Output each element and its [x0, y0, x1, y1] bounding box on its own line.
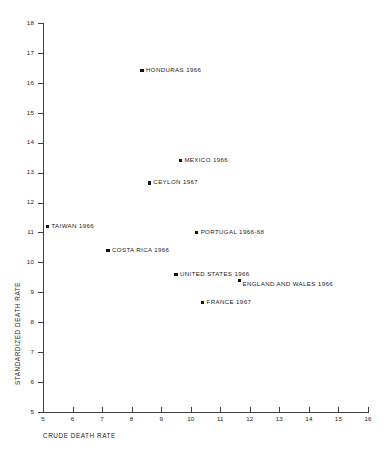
x-tick-label: 8 — [120, 416, 144, 422]
y-tick-label: 16 — [0, 80, 34, 86]
x-tick-label: 7 — [90, 416, 114, 422]
x-axis-line — [43, 412, 369, 413]
x-tick-label: 14 — [297, 416, 321, 422]
data-point-label: COSTA RICA 1966 — [112, 247, 169, 253]
x-tick-label: 9 — [149, 416, 173, 422]
data-point-marker — [46, 225, 49, 228]
x-tick-label: 11 — [208, 416, 232, 422]
x-tick-label: 10 — [179, 416, 203, 422]
y-tick-label: 18 — [0, 20, 34, 26]
data-point-marker — [179, 159, 182, 162]
data-point-marker — [140, 69, 143, 72]
x-tick-label: 15 — [326, 416, 350, 422]
plot-area — [43, 23, 368, 412]
data-point-label: TAIWAN 1966 — [51, 223, 94, 229]
x-axis-title: CRUDE DEATH RATE — [43, 432, 116, 439]
y-tick-label: 11 — [0, 229, 34, 235]
y-tick-label: 13 — [0, 169, 34, 175]
data-point-label: FRANCE 1967 — [207, 299, 252, 305]
y-tick-label: 17 — [0, 50, 34, 56]
scatter-plot-figure: 56789101112131415161718 5678910111213141… — [0, 0, 389, 460]
y-tick-label: 14 — [0, 139, 34, 145]
data-point-marker — [174, 273, 177, 276]
data-point-label: HONDURAS 1966 — [146, 67, 201, 73]
x-tick-label: 6 — [61, 416, 85, 422]
x-tick-label: 12 — [238, 416, 262, 422]
data-point-marker — [238, 279, 241, 282]
data-point-label: UNITED STATES 1966 — [180, 271, 250, 277]
data-point-label: CEYLON 1967 — [153, 179, 198, 185]
y-axis-title: STANDARDIZED DEATH RATE — [14, 269, 21, 399]
y-tick-label: 12 — [0, 199, 34, 205]
data-point-marker — [201, 301, 204, 304]
data-point-label: ENGLAND AND WALES 1966 — [242, 281, 333, 287]
x-tick-label: 13 — [267, 416, 291, 422]
data-point-marker — [195, 231, 198, 234]
data-point-label: MEXICO 1966 — [184, 157, 228, 163]
data-point-marker — [148, 181, 151, 184]
y-tick-label: 15 — [0, 110, 34, 116]
y-tick-label: 10 — [0, 259, 34, 265]
x-tick-mark — [368, 407, 369, 413]
data-point-marker — [106, 249, 109, 252]
y-tick-label: 5 — [0, 409, 34, 415]
x-tick-label: 16 — [356, 416, 380, 422]
data-point-label: PORTUGAL 1966-68 — [201, 229, 265, 235]
x-tick-label: 5 — [31, 416, 55, 422]
